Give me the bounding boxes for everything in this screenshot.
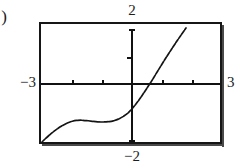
- axis-label-left: −3: [8, 74, 36, 90]
- cubic-curve-path: [42, 28, 186, 142]
- part-label: ): [0, 5, 7, 29]
- axis-label-top: 2: [112, 2, 152, 18]
- frame-shadow-bottom: [42, 144, 224, 146]
- frame-shadow-right: [222, 25, 224, 147]
- axis-label-right: 3: [227, 74, 245, 90]
- axis-label-bottom: −2: [112, 148, 152, 164]
- curve-plot: [39, 22, 222, 144]
- graph-screenshot: ) 2 −2 −3 3: [0, 0, 246, 168]
